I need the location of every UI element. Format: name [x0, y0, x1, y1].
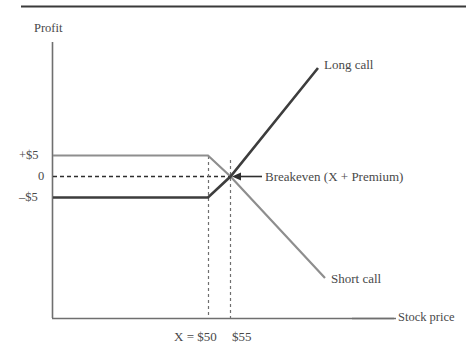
x-tick-label-strike: X = $50: [174, 330, 217, 343]
breakeven-arrow-icon: [232, 173, 262, 181]
y-tick-label-zero: 0: [38, 170, 44, 183]
x-axis-label: Stock price: [398, 311, 455, 324]
y-tick-label-plus-5: +$5: [19, 149, 39, 162]
breakeven-label: Breakeven (X + Premium): [265, 170, 403, 183]
short-call-label: Short call: [331, 272, 381, 285]
y-axis-label: Profit: [34, 22, 62, 35]
y-tick-label-minus-5: –$5: [19, 191, 38, 204]
long-call-label: Long call: [324, 58, 373, 71]
x-tick-label-breakeven: $55: [232, 330, 252, 343]
